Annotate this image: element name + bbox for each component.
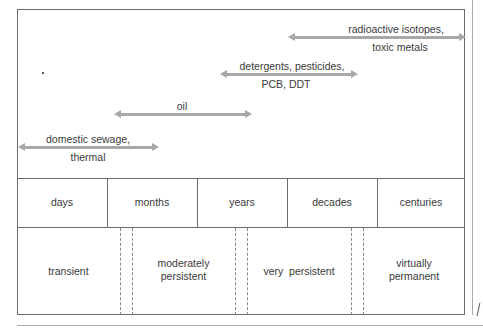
dashed-boundary [235, 228, 236, 315]
label-toxic-metals: toxic metals [372, 40, 427, 54]
label-oil: oil [177, 99, 188, 113]
persistence-label: persistent [161, 270, 207, 283]
label-domestic-sewage: domestic sewage, [46, 132, 130, 146]
timescale-years: years [197, 178, 287, 227]
label-radioactive-isotopes: radioactive isotopes, [348, 22, 444, 36]
label-detergents-pesticides: detergents, pesticides, [239, 59, 344, 73]
page-edge-bottom [17, 325, 483, 326]
persistence-moderately-persistent: moderately persistent [132, 228, 235, 312]
page-edge-right [472, 0, 473, 315]
arrow-radioactive-isotopes [294, 36, 460, 39]
persistence-label: moderately [158, 257, 210, 270]
persistence-transient: transient [17, 228, 120, 315]
label-pcb-ddt: PCB, DDT [261, 77, 310, 91]
dashed-boundary [351, 228, 352, 315]
arrow-oil [120, 113, 246, 116]
timescale-decades: decades [287, 178, 377, 227]
persistence-label: transient [48, 265, 88, 278]
stray-mark [42, 72, 44, 74]
persistence-very-persistent: very persistent [247, 228, 351, 315]
dashed-boundary [120, 228, 121, 315]
timescale-months: months [107, 178, 197, 227]
persistence-label: very persistent [263, 265, 334, 278]
arrow-domestic-sewage [24, 146, 153, 149]
persistence-label: virtually [396, 257, 432, 270]
persistence-label: permanent [389, 270, 439, 283]
timescale-centuries: centuries [377, 178, 465, 227]
edge-mark [477, 303, 481, 316]
label-thermal: thermal [70, 150, 105, 164]
timescale-days: days [17, 178, 107, 227]
persistence-virtually-permanent: virtually permanent [363, 228, 465, 312]
arrow-detergents-pesticides [226, 73, 352, 76]
